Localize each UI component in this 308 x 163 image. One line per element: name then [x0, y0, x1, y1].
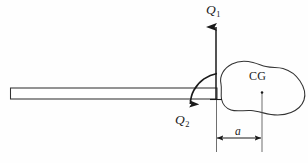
figure-container: Q1 Q2 CG a [0, 0, 308, 163]
label-force-q1: Q1 [206, 3, 220, 17]
beam-outline [11, 88, 218, 99]
label-dimension-a: a [235, 126, 241, 138]
label-force-q2-base: Q [175, 112, 185, 127]
label-force-q1-base: Q [206, 2, 216, 17]
cg-dot [261, 91, 264, 94]
label-force-q2: Q2 [175, 113, 189, 127]
label-force-q2-subscript: 2 [185, 120, 189, 129]
label-center-of-gravity: CG [249, 70, 266, 82]
label-force-q1-subscript: 1 [216, 10, 220, 19]
